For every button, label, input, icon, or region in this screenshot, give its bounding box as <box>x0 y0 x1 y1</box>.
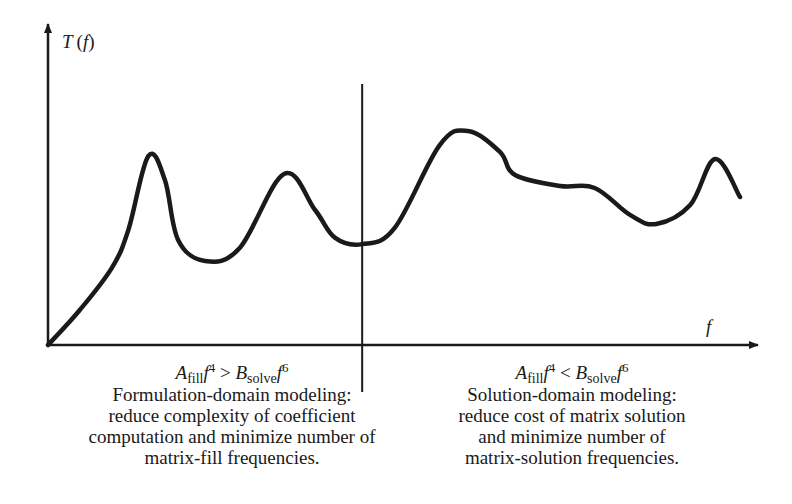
x-axis-label: f <box>706 316 714 337</box>
solution-domain-condition: Afillf4 < Bsolvef6 <box>402 362 742 383</box>
caption-line: and minimize number of <box>402 426 742 447</box>
caption-line: reduce cost of matrix solution <box>402 405 742 426</box>
caption-line: reduce complexity of coefficient <box>52 405 412 426</box>
y-axis-label: T(f) <box>62 31 95 53</box>
caption-line: matrix-fill frequencies. <box>52 447 412 468</box>
solution-domain-caption: Afillf4 < Bsolvef6 Solution-domain model… <box>402 362 742 468</box>
caption-line: computation and minimize number of <box>52 426 412 447</box>
caption-line: Formulation-domain modeling: <box>52 384 412 405</box>
caption-line: matrix-solution frequencies. <box>402 447 742 468</box>
formulation-domain-condition: Afillf4 > Bsolvef6 <box>52 362 412 383</box>
caption-line: Solution-domain modeling: <box>402 384 742 405</box>
formulation-domain-caption: Afillf4 > Bsolvef6 Formulation-domain mo… <box>52 362 412 468</box>
series-line-t-of-f <box>48 130 740 345</box>
